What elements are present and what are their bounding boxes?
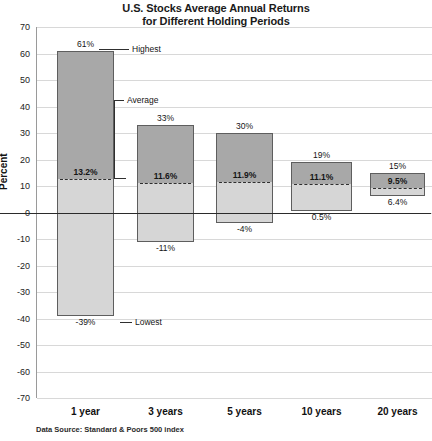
- lowest-callout-leader: [120, 322, 132, 323]
- source-note: Data Source: Standard & Poors 500 index: [36, 425, 184, 434]
- y-axis-tick-label: -30: [0, 288, 30, 297]
- zero-line: [0, 213, 431, 214]
- average-marker-line: [60, 179, 111, 180]
- x-axis-tick-label: 1 year: [51, 406, 120, 417]
- lowest-value-label: -11%: [137, 244, 194, 253]
- bar-1-year[interactable]: 13.2%: [57, 51, 114, 316]
- bar-20-years[interactable]: 9.5%: [370, 173, 425, 196]
- x-axis-tick-label: 10 years: [285, 406, 358, 417]
- bar-segment-above-average: [58, 52, 113, 179]
- lowest-value-label: 0.5%: [291, 213, 352, 222]
- y-axis-tick-label: -20: [0, 262, 30, 271]
- chart-title-line-1: U.S. Stocks Average Annual Returns: [0, 2, 432, 15]
- y-axis-tick-label: -10: [0, 235, 30, 244]
- plot-area: 13.2%61%-39%11.6%33%-11%11.9%30%-4%11.1%…: [36, 27, 432, 398]
- lowest-value-label: -4%: [216, 225, 273, 234]
- highest-annotation-label: Highest: [132, 45, 161, 54]
- highest-value-label: 15%: [370, 162, 425, 171]
- average-marker-line: [373, 188, 422, 189]
- y-axis-tick-label: -60: [0, 368, 30, 377]
- highest-value-label: 30%: [216, 122, 273, 131]
- x-axis-tick-label: 20 years: [364, 406, 431, 417]
- y-axis-tick-label: 20: [0, 156, 30, 165]
- y-axis-tick-label: 10: [0, 182, 30, 191]
- gridline: [37, 27, 432, 28]
- average-annotation-label: Average: [127, 96, 159, 105]
- highest-value-label: 33%: [137, 114, 194, 123]
- average-value-label: 11.6%: [138, 172, 193, 181]
- y-axis-tick-label: 50: [0, 76, 30, 85]
- y-axis-tick-label: 30: [0, 129, 30, 138]
- average-value-label: 13.2%: [58, 168, 113, 177]
- y-axis-tick-label: 40: [0, 103, 30, 112]
- y-axis-tick-label: -70: [0, 394, 30, 403]
- average-value-label: 11.1%: [292, 173, 351, 182]
- y-axis-tick-label: 60: [0, 50, 30, 59]
- average-callout-leader-vertical: [114, 100, 115, 178]
- gridline: [37, 372, 432, 373]
- bar-5-years[interactable]: 11.9%: [216, 133, 273, 223]
- chart-container: U.S. Stocks Average Annual Returns for D…: [0, 0, 432, 441]
- average-marker-line: [140, 183, 191, 184]
- lowest-annotation-label: Lowest: [135, 318, 162, 327]
- highest-callout-leader: [99, 49, 129, 50]
- gridline: [37, 345, 432, 346]
- y-axis-tick-label: -40: [0, 315, 30, 324]
- y-axis-tick-label: 70: [0, 23, 30, 32]
- bar-3-years[interactable]: 11.6%: [137, 125, 194, 242]
- chart-title: U.S. Stocks Average Annual Returns for D…: [0, 2, 432, 28]
- average-callout-leader-foot: [114, 178, 126, 179]
- average-marker-line: [294, 184, 349, 185]
- average-value-label: 11.9%: [217, 171, 272, 180]
- x-axis-tick-label: 5 years: [210, 406, 279, 417]
- average-value-label: 9.5%: [371, 177, 424, 186]
- average-marker-line: [219, 182, 270, 183]
- gridline: [37, 398, 432, 399]
- average-callout-leader-elbow: [114, 100, 124, 101]
- bar-10-years[interactable]: 11.1%: [291, 162, 352, 211]
- lowest-value-label: -39%: [57, 318, 114, 327]
- highest-value-label: 61%: [57, 40, 114, 49]
- y-axis-tick-label: -50: [0, 341, 30, 350]
- x-axis-tick-label: 3 years: [131, 406, 200, 417]
- highest-value-label: 19%: [291, 151, 352, 160]
- lowest-value-label: 6.4%: [370, 198, 425, 207]
